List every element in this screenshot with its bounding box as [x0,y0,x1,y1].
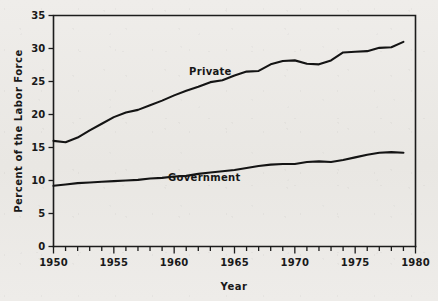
y-axis-title: Percent of the Labor Force [13,49,24,213]
y-tick-label: 15 [31,142,45,153]
plot-frame [54,16,416,247]
axis-spines [54,16,416,247]
series-line-private [54,42,404,142]
x-tick-label: 1950 [39,257,68,268]
series-label-private: Private [189,66,232,77]
y-tick-label: 25 [31,76,45,87]
data-series-group [54,42,404,186]
y-tick-label: 30 [31,43,45,54]
y-tick-label: 20 [31,109,45,120]
x-tick-label: 1970 [281,257,310,268]
x-axis-title: Year [220,281,248,292]
x-tick-label: 1980 [401,257,430,268]
chart-figure: 05101520253035 1950195519601965197019751… [0,0,438,301]
line-chart: 05101520253035 1950195519601965197019751… [0,0,438,301]
y-tick-label: 35 [31,10,45,21]
x-tick-label: 1975 [341,257,370,268]
y-tick-label: 10 [31,175,45,186]
x-tick-label: 1960 [160,257,189,268]
series-label-government: Government [168,172,241,183]
y-tick-label: 5 [38,208,45,219]
x-tick-label: 1965 [220,257,249,268]
y-axis-ticks: 05101520253035 [31,10,53,252]
x-tick-label: 1955 [100,257,129,268]
y-tick-label: 0 [38,241,45,252]
x-axis-ticks: 1950195519601965197019751980 [39,247,430,268]
